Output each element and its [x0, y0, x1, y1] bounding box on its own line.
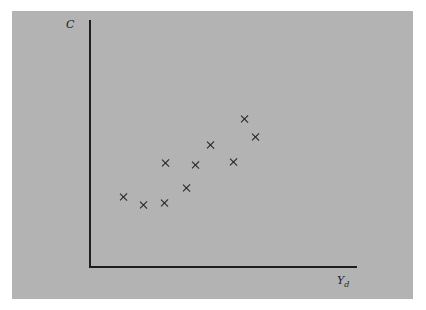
- data-point-x-marker: [207, 141, 215, 149]
- y-axis: [89, 20, 91, 268]
- x-axis-label: Yd: [337, 274, 349, 289]
- data-point-x-marker: [183, 184, 191, 192]
- x-axis: [89, 266, 357, 268]
- data-point-x-marker: [161, 199, 169, 207]
- y-axis-label: C: [66, 18, 74, 31]
- data-point-x-marker: [230, 158, 238, 166]
- data-point-x-marker: [241, 115, 249, 123]
- data-point-x-marker: [192, 161, 200, 169]
- data-point-x-marker: [252, 133, 260, 141]
- data-point-x-marker: [120, 193, 128, 201]
- data-point-x-marker: [162, 159, 170, 167]
- chart-panel: [12, 11, 413, 299]
- data-point-x-marker: [140, 201, 148, 209]
